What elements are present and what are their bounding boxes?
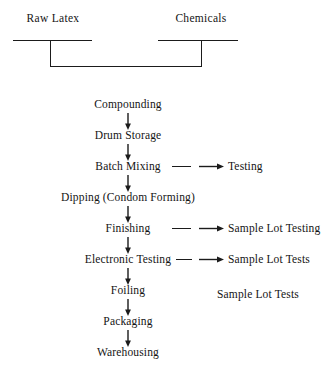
process-step-warehousing: Warehousing [97,346,159,359]
arrow-down-icon [123,206,134,223]
process-step-foiling: Foiling [111,284,145,297]
arrow-down-icon [123,175,134,192]
bracket-join-bar [50,66,202,67]
process-step-finishing: Finishing [106,222,151,235]
arrow-down-icon [123,113,134,130]
arrow-down-icon [123,237,134,254]
arrow-down-icon [123,299,134,316]
process-step-dipping: Dipping (Condom Forming) [61,191,195,204]
process-flowchart: Raw Latex Chemicals Compounding Drum Sto… [0,0,332,382]
arrow-right-icon [199,254,224,265]
bracket-drop-right [201,40,202,67]
process-step-compounding: Compounding [94,98,161,111]
process-step-packaging: Packaging [103,315,152,328]
input-label-chemicals: Chemicals [175,12,226,25]
bracket-line-left [13,40,92,41]
process-step-drum-storage: Drum Storage [95,129,162,142]
branch-dash-finishing [172,228,191,229]
bracket-drop-left [50,40,51,67]
arrow-right-icon [199,161,224,172]
branch-output-testing: Testing [228,160,263,173]
branch-dash-electronic-testing [176,259,192,260]
bracket-line-right [158,40,238,41]
input-label-raw-latex: Raw Latex [27,12,80,25]
arrow-down-icon [123,268,134,285]
process-step-electronic-testing: Electronic Testing [85,253,171,266]
branch-output-sample-lot-testing: Sample Lot Testing [228,222,320,235]
arrow-right-icon [199,223,224,234]
arrow-down-icon [123,330,134,347]
arrow-down-icon [123,144,134,161]
branch-dash-batch-mixing [172,166,191,167]
branch-output-sample-lot-tests-1: Sample Lot Tests [228,253,310,266]
process-step-batch-mixing: Batch Mixing [95,160,160,173]
branch-output-sample-lot-tests-2: Sample Lot Tests [217,288,299,301]
